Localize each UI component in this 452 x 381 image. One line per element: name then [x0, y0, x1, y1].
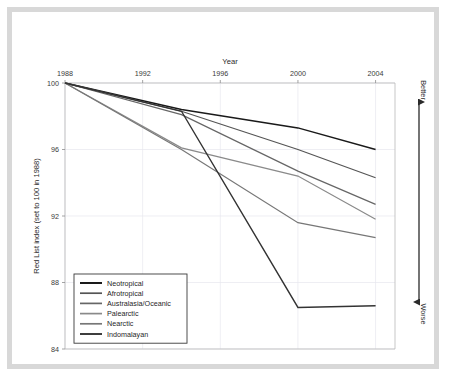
y-tick-labels: 84889296100 — [47, 79, 59, 354]
y-tick-label: 100 — [47, 79, 59, 88]
red-list-index-line-chart: 19881992199620002004 84889296100 Year Re… — [12, 12, 434, 364]
y-tick-label: 96 — [51, 145, 59, 154]
x-tick-labels: 19881992199620002004 — [57, 69, 384, 78]
y-tick-label: 84 — [51, 345, 59, 354]
legend-label: Nearctic — [107, 319, 134, 328]
figure-canvas: 19881992199620002004 84889296100 Year Re… — [12, 12, 434, 364]
better-label: Better — [419, 80, 428, 100]
x-tick-label: 1992 — [135, 69, 151, 78]
y-tick-label: 88 — [51, 278, 59, 287]
x-tick-label: 2000 — [290, 69, 306, 78]
x-tick-label: 2004 — [368, 69, 384, 78]
better-worse-arrow: Better Worse — [419, 80, 428, 324]
figure-frame: 19881992199620002004 84889296100 Year Re… — [7, 7, 439, 369]
x-axis-title: Year — [222, 57, 238, 66]
x-tick-label: 1996 — [212, 69, 228, 78]
x-tick-label: 1988 — [57, 69, 73, 78]
worse-label: Worse — [419, 303, 428, 324]
legend-label: Australasia/Oceanic — [107, 299, 171, 308]
y-axis-title: Red List index (set to 100 in 1988) — [32, 158, 41, 274]
legend-label: Indomalayan — [107, 330, 148, 339]
legend-label: Neotropical — [107, 279, 144, 288]
legend-label: Palearctic — [107, 309, 139, 318]
legend[interactable]: NeotropicalAfrotropicalAustralasia/Ocean… — [74, 274, 187, 343]
y-tick-label: 92 — [51, 212, 59, 221]
legend-label: Afrotropical — [107, 289, 144, 298]
